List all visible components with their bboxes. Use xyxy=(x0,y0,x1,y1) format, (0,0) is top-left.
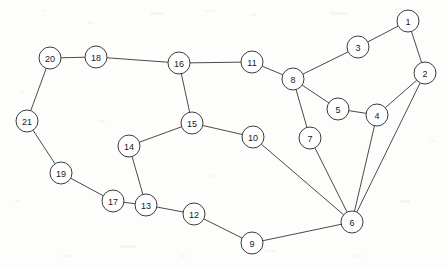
graph-node-1[interactable]: 1 xyxy=(397,10,419,32)
graph-node-label-20: 20 xyxy=(45,54,55,64)
graph-node-label-10: 10 xyxy=(248,133,258,143)
graph-edge-2-4 xyxy=(385,80,416,108)
graph-node-10[interactable]: 10 xyxy=(242,126,264,148)
graph-edge-14-15 xyxy=(139,127,181,142)
graph-node-8[interactable]: 8 xyxy=(282,68,304,90)
graph-node-label-2: 2 xyxy=(422,69,427,79)
graph-node-20[interactable]: 20 xyxy=(39,47,61,69)
graph-edge-20-21 xyxy=(31,68,46,110)
graph-edge-2-6 xyxy=(357,83,420,212)
graph-node-3[interactable]: 3 xyxy=(347,36,369,58)
graph-node-label-4: 4 xyxy=(374,111,379,121)
graph-node-18[interactable]: 18 xyxy=(85,46,107,68)
graph-node-19[interactable]: 19 xyxy=(50,162,72,184)
graph-node-label-6: 6 xyxy=(349,218,354,228)
graph-node-label-21: 21 xyxy=(22,117,32,127)
network-graph-canvas: 123456789101112131415161718192021 xyxy=(0,0,447,268)
graph-node-label-18: 18 xyxy=(91,53,101,63)
graph-node-label-3: 3 xyxy=(355,43,360,53)
graph-node-16[interactable]: 16 xyxy=(168,52,190,74)
graph-node-15[interactable]: 15 xyxy=(181,112,203,134)
graph-edge-11-16 xyxy=(190,62,241,63)
graph-edge-4-6 xyxy=(355,126,375,212)
graph-node-2[interactable]: 2 xyxy=(414,62,436,84)
graph-node-label-8: 8 xyxy=(290,75,295,85)
graph-edge-16-18 xyxy=(107,58,168,62)
graph-node-label-13: 13 xyxy=(141,201,151,211)
graph-edge-3-8 xyxy=(303,52,348,74)
graph-edge-8-11 xyxy=(262,66,283,75)
graph-edge-18-20 xyxy=(61,57,85,58)
graph-node-12[interactable]: 12 xyxy=(183,203,205,225)
graph-edge-9-6 xyxy=(263,224,341,240)
graph-node-label-9: 9 xyxy=(249,239,254,249)
graph-edge-13-12 xyxy=(157,207,183,212)
graph-edge-4-5 xyxy=(349,111,366,114)
graph-edge-7-6 xyxy=(315,148,347,212)
graph-edge-15-10 xyxy=(203,125,243,134)
graph-edge-7-8 xyxy=(296,90,307,128)
graph-node-11[interactable]: 11 xyxy=(241,51,263,73)
graph-node-17[interactable]: 17 xyxy=(102,190,124,212)
graph-node-label-14: 14 xyxy=(124,142,134,152)
graph-edge-1-3 xyxy=(368,26,398,42)
graph-edge-1-2 xyxy=(411,31,421,62)
graph-node-label-15: 15 xyxy=(187,119,197,129)
graph-edge-13-14 xyxy=(132,157,143,195)
graph-node-4[interactable]: 4 xyxy=(366,104,388,126)
graph-node-label-16: 16 xyxy=(174,59,184,69)
graph-node-6[interactable]: 6 xyxy=(341,211,363,233)
graph-node-label-7: 7 xyxy=(307,134,312,144)
graph-edge-17-13 xyxy=(124,202,135,203)
graph-node-label-19: 19 xyxy=(56,169,66,179)
network-graph-svg: 123456789101112131415161718192021 xyxy=(0,0,447,268)
graph-node-label-1: 1 xyxy=(405,17,410,27)
graph-node-label-12: 12 xyxy=(189,210,199,220)
graph-edge-12-9 xyxy=(204,219,242,238)
graph-node-label-5: 5 xyxy=(335,105,340,115)
graph-node-5[interactable]: 5 xyxy=(327,98,349,120)
graph-edge-16-15 xyxy=(181,74,189,113)
graph-node-14[interactable]: 14 xyxy=(118,135,140,157)
graph-edge-5-8 xyxy=(302,85,329,103)
graph-node-21[interactable]: 21 xyxy=(16,110,38,132)
graph-node-label-17: 17 xyxy=(108,197,118,207)
graph-node-7[interactable]: 7 xyxy=(299,127,321,149)
graph-node-13[interactable]: 13 xyxy=(135,194,157,216)
graph-node-9[interactable]: 9 xyxy=(241,232,263,254)
graph-edge-21-19 xyxy=(33,130,55,164)
graph-node-label-11: 11 xyxy=(247,58,256,68)
graph-edge-19-17 xyxy=(71,178,104,196)
